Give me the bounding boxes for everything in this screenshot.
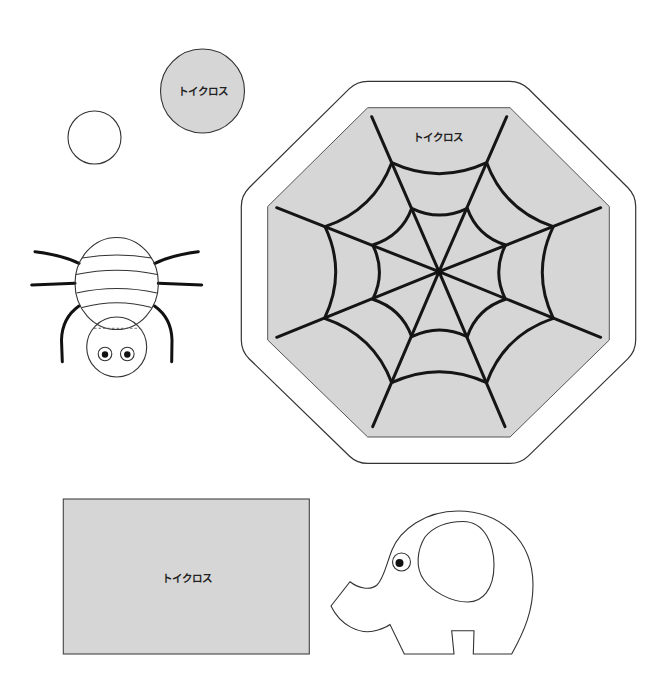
spider-pupil-right	[124, 351, 130, 357]
cutout-template-sheet: トイクロス	[0, 0, 661, 678]
spider-leg-middle-right	[158, 283, 201, 285]
web-octagon-label: トイクロス	[413, 131, 463, 143]
gray-circle-piece: トイクロス	[161, 49, 245, 133]
rectangle-label: トイクロス	[162, 572, 212, 584]
spider-pupil-left	[102, 351, 108, 357]
elephant-pupil	[396, 559, 404, 567]
gray-circle-label: トイクロス	[178, 85, 228, 97]
rectangle-piece: トイクロス	[63, 499, 309, 654]
web-octagon-piece: トイクロス	[268, 108, 610, 437]
web-center	[436, 269, 441, 274]
spider-leg-middle-left	[32, 283, 75, 285]
